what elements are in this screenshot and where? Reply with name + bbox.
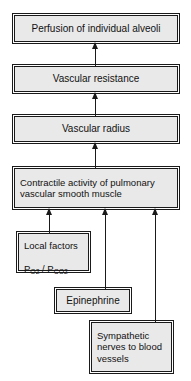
node-label: Sympathetic nerves to blood vessels <box>92 330 171 364</box>
arrowhead-local-to-contractile <box>46 208 52 215</box>
diagram-canvas: Perfusion of individual alveoli Vascular… <box>0 0 191 381</box>
node-perfusion-of-individual-alveoli: Perfusion of individual alveoli <box>14 15 178 42</box>
node-label: Perfusion of individual alveoli <box>27 23 166 35</box>
node-vascular-resistance: Vascular resistance <box>14 66 178 92</box>
node-contractile-activity: Contractile activity of pulmonary vascul… <box>14 168 178 208</box>
connector-sympathetic-to-contractile <box>155 215 156 322</box>
arrowhead-radius-to-resistance <box>92 92 98 99</box>
connector-radius-to-resistance <box>95 98 96 116</box>
arrowhead-sympathetic-to-contractile <box>152 208 158 215</box>
connector-resistance-to-perfusion <box>95 48 96 66</box>
subscript-co2: CO2 <box>54 267 68 274</box>
node-sympathetic-nerves: Sympathetic nerves to blood vessels <box>91 322 172 372</box>
node-label: Vascular resistance <box>48 73 145 85</box>
arrowhead-resistance-to-perfusion <box>92 42 98 49</box>
local-factors-line1: Local factors <box>24 240 78 251</box>
connector-epinephrine-to-contractile <box>105 215 106 289</box>
local-factors-line2: PO2 / PCO2 <box>24 263 68 274</box>
node-local-factors: Local factors PO2 / PCO2 <box>18 233 89 271</box>
arrowhead-epinephrine-to-contractile <box>102 208 108 215</box>
connector-contractile-to-radius <box>95 148 96 168</box>
node-epinephrine: Epinephrine <box>56 289 130 312</box>
node-label: Epinephrine <box>61 295 124 307</box>
node-label: Local factors PO2 / PCO2 <box>19 229 83 275</box>
node-label: Contractile activity of pulmonary vascul… <box>15 177 177 199</box>
node-vascular-radius: Vascular radius <box>14 116 178 142</box>
node-label: Vascular radius <box>57 123 135 135</box>
arrowhead-contractile-to-radius <box>92 142 98 149</box>
